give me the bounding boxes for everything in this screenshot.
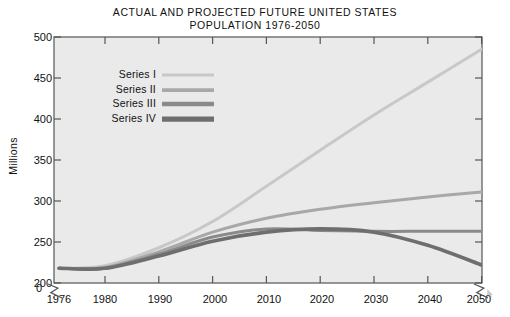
legend-label-series-1: Series I <box>119 68 156 80</box>
legend-label-series-4: Series IV <box>112 112 156 124</box>
legend-swatch-series-3 <box>162 97 214 111</box>
axis-break-symbol <box>474 284 488 298</box>
legend-swatch-series-2 <box>162 83 214 97</box>
legend-item-series-2: Series II <box>76 83 214 98</box>
legend-item-series-3: Series III <box>76 97 214 112</box>
plot-area <box>0 0 510 317</box>
legend-label-series-3: Series III <box>113 97 156 109</box>
cursor-icon <box>487 289 493 298</box>
chart-figure: ACTUAL AND PROJECTED FUTURE UNITED STATE… <box>0 0 510 317</box>
axis-break-symbol <box>48 284 62 298</box>
chart-legend: Series I Series II Series III Series IV <box>76 68 214 126</box>
legend-item-series-1: Series I <box>76 68 214 83</box>
legend-label-series-2: Series II <box>116 83 156 95</box>
legend-swatch-series-4 <box>162 112 214 126</box>
legend-item-series-4: Series IV <box>76 112 214 127</box>
legend-swatch-series-1 <box>162 68 214 82</box>
